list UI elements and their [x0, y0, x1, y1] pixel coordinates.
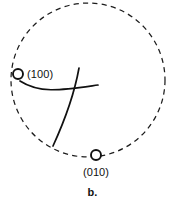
primitive-circle [11, 3, 165, 157]
pole-label-010: (010) [83, 166, 109, 178]
pole-label-100: (100) [27, 68, 53, 80]
near-vertical-trace [53, 68, 79, 146]
stereographic-projection-figure: (100) (010) b. [0, 0, 185, 204]
stereogram-canvas: (100) (010) [0, 0, 185, 204]
panel-caption: b. [0, 186, 185, 198]
pole-marker-100 [13, 69, 23, 79]
pole-marker-010 [91, 150, 101, 160]
near-horizontal-trace [20, 81, 98, 90]
